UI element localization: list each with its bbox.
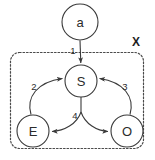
edge-label-2: 2 [31, 81, 36, 92]
diagram-canvas: X 1 2 3 4 a S E O [0, 0, 155, 160]
state-diagram: X 1 2 3 4 a S E O [0, 0, 155, 160]
edge-a-to-s [80, 41, 81, 64]
edge-s-to-o [81, 112, 108, 132]
node-a-label: a [76, 15, 84, 30]
boundary-label-x: X [132, 35, 140, 49]
node-e-label: E [29, 124, 38, 139]
edge-label-1: 1 [70, 45, 75, 56]
node-o-label: O [122, 124, 132, 139]
edge-label-4: 4 [72, 110, 77, 121]
node-s-label: S [77, 74, 86, 89]
edge-label-3: 3 [122, 81, 127, 92]
